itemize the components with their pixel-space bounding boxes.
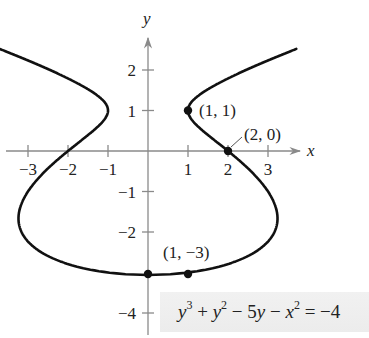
point-label-1-neg3: (1, −3) (163, 243, 209, 262)
equation: y3 + y2 − 5y − x2 = −4 (178, 300, 340, 323)
point-label-1-1: (1, 1) (199, 101, 236, 120)
point-label-2-0: (2, 0) (244, 125, 281, 144)
x-tick-label: −1 (99, 160, 117, 179)
x-ticks: −3−2−1123 (19, 145, 272, 179)
x-tick-label: −2 (59, 160, 77, 179)
y-tick-label: −1 (118, 183, 136, 202)
point-marker (224, 147, 232, 155)
x-tick-label: 3 (264, 160, 273, 179)
y-tick-label: 1 (128, 102, 137, 121)
point-marker (184, 270, 192, 278)
x-tick-label: 2 (224, 160, 233, 179)
y-axis-label: y (141, 9, 151, 28)
equation-box: y3 + y2 − 5y − x2 = −4 (160, 292, 369, 332)
graph: x y −3−2−1123 21−1−2−4 (1, 1) (2, 0) (1,… (0, 0, 369, 338)
y-tick-label: −2 (118, 223, 136, 242)
x-tick-label: −3 (19, 160, 37, 179)
leader-line (231, 137, 242, 147)
point-marker (184, 106, 192, 114)
x-axis-label: x (306, 141, 315, 160)
x-tick-label: 1 (184, 160, 193, 179)
y-tick-label: 2 (128, 61, 137, 80)
y-tick-label: −4 (118, 304, 137, 323)
point-marker (144, 270, 152, 278)
